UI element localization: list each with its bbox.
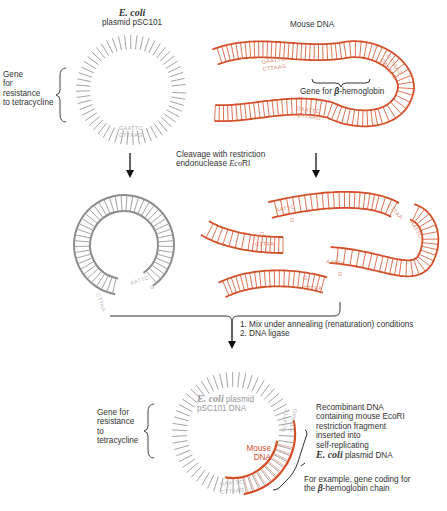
svg-text:GAATTC: GAATTC <box>219 479 243 487</box>
mouse-fragments: GCTTAAAATTCGCTTAAAATTCGAATTCGCTTAA <box>201 192 438 297</box>
svg-text:G: G <box>338 271 343 277</box>
svg-text:CTTAA: CTTAA <box>95 292 107 312</box>
tet-gene-label-bottom: Gene for resistance to tetracycline <box>97 408 138 446</box>
recombinant-label: Recombinant DNA containing mouse EcoRI r… <box>316 403 405 460</box>
opened-plasmid: CTTAAAATTCG <box>74 195 174 312</box>
plasmid-title: E. coli plasmid pSC101 <box>102 8 162 28</box>
step1-label: Cleavage with restriction endonuclease E… <box>176 150 265 169</box>
svg-text:G: G <box>290 217 295 223</box>
beta-gene-label: Gene for β-hemoglobin <box>300 87 384 96</box>
mouse-dna-hairpin: GAATTCCTTAAGGAATTCCTTAAGGAATTCCTTAAG <box>212 41 414 126</box>
svg-text:CTTAAG: CTTAAG <box>220 487 244 495</box>
svg-text:AATTC: AATTC <box>129 274 149 286</box>
mouse-dna-title: Mouse DNA <box>290 20 334 29</box>
svg-text:G: G <box>150 284 155 290</box>
svg-text:G: G <box>260 231 265 237</box>
svg-text:AATTC: AATTC <box>275 204 295 213</box>
svg-text:AATTC: AATTC <box>326 258 346 267</box>
tet-bracket-top <box>56 68 66 122</box>
example-label: For example, gene coding for the β-hemog… <box>304 475 411 494</box>
svg-text:CTTAA: CTTAA <box>386 202 404 220</box>
svg-text:GAATTC: GAATTC <box>119 125 143 131</box>
plasmid-ring-top: GAATTCCTTAAG <box>76 35 187 145</box>
merge-bracket <box>110 302 340 322</box>
recombinant-ring: GAATTCCTTAAGGAATTCCTTAAG <box>172 372 298 495</box>
svg-text:CTTAA: CTTAA <box>255 241 274 247</box>
svg-text:CTTAA: CTTAA <box>303 285 322 291</box>
svg-text:G: G <box>303 275 308 281</box>
plasmid-inner-label: E. coli plasmid pSC101 DNA <box>197 394 254 414</box>
svg-text:CTTAAG: CTTAAG <box>119 132 143 138</box>
mouse-inner-label: Mouse DNA <box>245 444 271 463</box>
tet-gene-label-top: Gene for resistance to tetracycline <box>3 70 54 108</box>
tet-bracket-bottom <box>144 404 154 458</box>
svg-text:AATTC: AATTC <box>409 220 424 240</box>
beta-gene-bracket <box>312 79 370 87</box>
step2-label: 1. Mix under annealing (renaturation) co… <box>240 320 413 339</box>
